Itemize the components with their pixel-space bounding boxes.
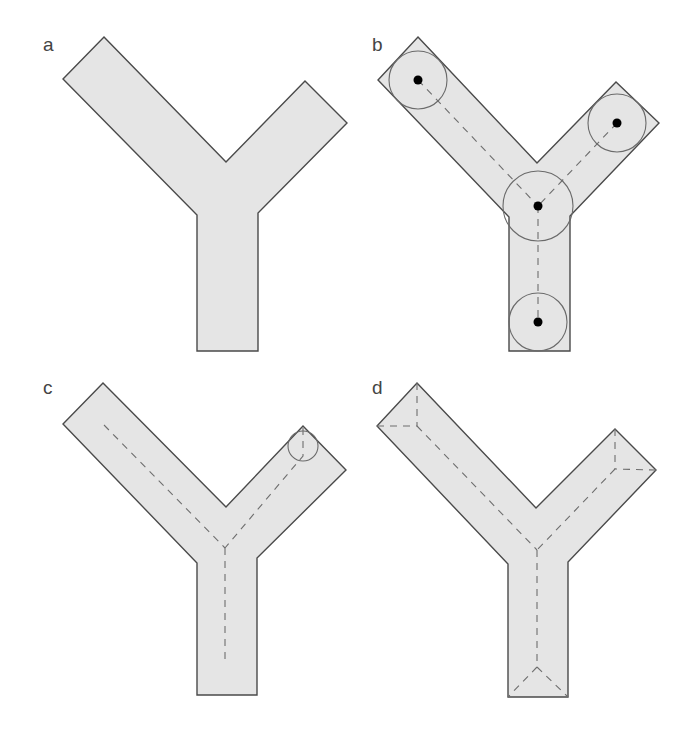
disk-center-dot xyxy=(534,318,543,327)
medial-axis-figure: a b c d xyxy=(0,0,696,733)
panel-b: b xyxy=(372,34,659,351)
y-shape-polygon xyxy=(378,37,659,351)
disk-center-dot xyxy=(414,76,423,85)
y-shape-polygon xyxy=(377,383,656,697)
disk-center-dot xyxy=(534,202,543,211)
y-shape-polygon xyxy=(63,37,347,351)
disk-center-dot xyxy=(613,119,622,128)
panel-c: c xyxy=(43,377,346,695)
panel-label-a: a xyxy=(43,34,54,55)
panel-label-c: c xyxy=(43,377,53,398)
panel-a: a xyxy=(43,34,347,351)
panel-label-b: b xyxy=(372,34,383,55)
panel-label-d: d xyxy=(372,377,383,398)
panel-d: d xyxy=(372,377,656,697)
